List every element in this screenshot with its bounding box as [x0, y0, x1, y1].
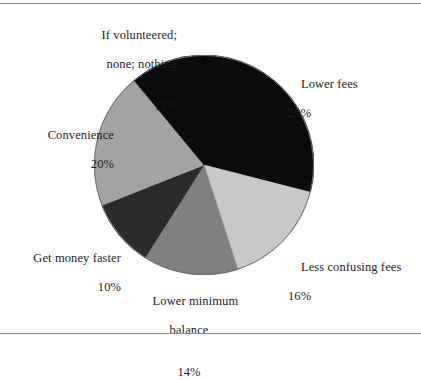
pie-label-get-money-faster: Get money faster 10% — [8, 237, 121, 322]
pie-label-lower-fees-text: Lower fees — [301, 77, 358, 91]
pie-label-convenience: Convenience 20% — [8, 114, 114, 199]
pie-label-convenience-text: Convenience — [48, 128, 114, 142]
pie-label-if-volunteered-line2: none; nothing — [55, 57, 177, 71]
pie-label-less-confusing-fees-percent: 16% — [288, 289, 418, 303]
pie-label-get-money-faster-text: Get money faster — [33, 251, 121, 265]
pie-label-if-volunteered-line1: If volunteered; — [102, 28, 177, 42]
figure-top-rule — [0, 3, 421, 4]
pie-label-lower-minimum-balance-line2: balance — [118, 323, 260, 337]
pie-label-less-confusing-fees-text: Less confusing fees — [301, 260, 401, 274]
pie-label-lower-minimum-balance-line1: Lower minimum — [153, 294, 239, 308]
pie-label-lower-fees-percent: 29% — [288, 106, 416, 120]
figure-bottom-rule — [0, 333, 421, 334]
pie-label-if-volunteered-percent: 11% — [55, 99, 177, 113]
pie-label-get-money-faster-percent: 10% — [8, 280, 121, 294]
pie-label-lower-minimum-balance: Lower minimum balance 14% — [118, 280, 260, 380]
pie-label-lower-minimum-balance-percent: 14% — [118, 365, 260, 379]
pie-label-lower-fees: Lower fees 29% — [288, 63, 416, 148]
pie-label-convenience-percent: 20% — [8, 157, 114, 171]
pie-label-less-confusing-fees: Less confusing fees 16% — [288, 246, 418, 331]
